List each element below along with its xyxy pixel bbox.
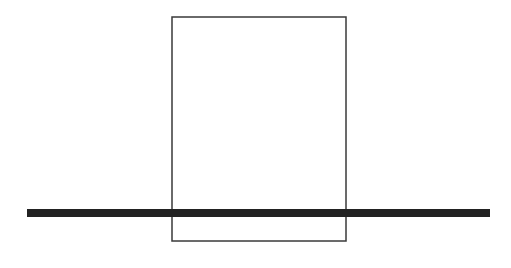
diagram-canvas (0, 0, 511, 268)
background (0, 0, 511, 268)
